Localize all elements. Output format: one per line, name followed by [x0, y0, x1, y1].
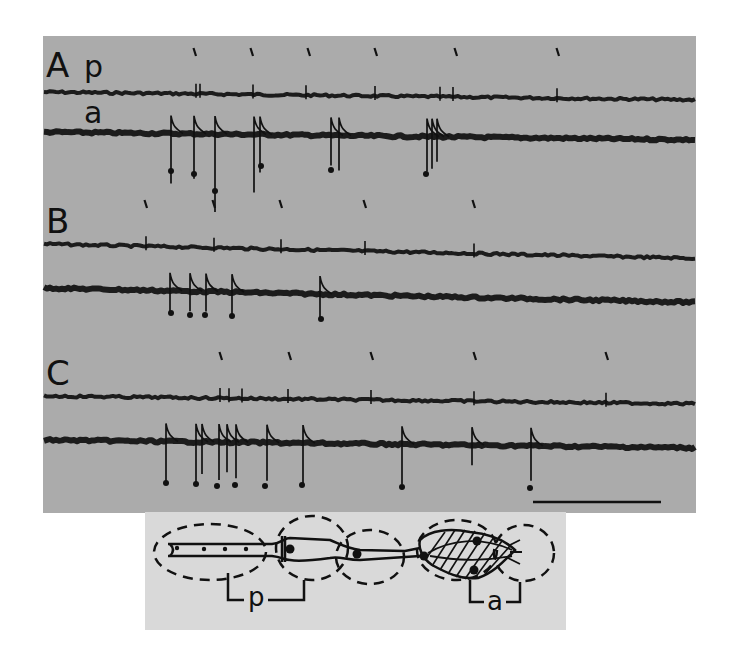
- trace-label-a: a: [84, 95, 102, 130]
- region-label-p: p: [248, 582, 265, 612]
- spike-marker-dot: [318, 316, 324, 322]
- recording-traces: [44, 48, 695, 491]
- a-spike: [531, 428, 543, 481]
- bracket-p-right: [268, 580, 304, 600]
- stimulus-tick: [194, 48, 197, 56]
- region-label-a: a: [487, 586, 503, 616]
- bracket-a-right: [506, 582, 520, 602]
- spike-marker-dot: [193, 481, 199, 487]
- a-spike: [202, 424, 214, 474]
- stimulus-tick: [220, 352, 223, 360]
- spike-marker-dot: [187, 312, 193, 318]
- a-spike: [402, 426, 414, 484]
- cluster-terminals: [508, 540, 522, 564]
- a-spike: [194, 116, 206, 179]
- panel-label-b: B: [46, 201, 69, 241]
- spike-marker-dot: [399, 484, 405, 490]
- panel-a-traces: [44, 48, 695, 212]
- spike-marker-dot: [168, 310, 174, 316]
- a-spike: [166, 423, 178, 481]
- panel-c-traces: [44, 352, 695, 491]
- stimulus-tick: [473, 200, 476, 208]
- a-spike: [432, 119, 444, 169]
- spike-marker-dot: [527, 485, 533, 491]
- spike-marker-dot: [212, 188, 218, 194]
- spike-marker-dot: [328, 167, 334, 173]
- stimulus-tick: [606, 352, 609, 360]
- panel-label-a: A: [46, 45, 69, 85]
- spike-marker-dot: [232, 482, 238, 488]
- dashed-region-1: [154, 524, 266, 580]
- stimulus-tick: [251, 48, 254, 56]
- spike-marker-dot: [262, 483, 268, 489]
- a-spike: [267, 425, 279, 481]
- spike-marker-dot: [163, 480, 169, 486]
- spike-marker-dot: [202, 312, 208, 318]
- cell-chain-lower: [168, 556, 420, 561]
- spike-marker-dot: [423, 171, 429, 177]
- spike-marker-dot: [299, 482, 305, 488]
- stimulus-tick: [371, 352, 374, 360]
- bracket-a-left: [470, 580, 484, 602]
- panel-label-c: C: [46, 353, 70, 393]
- spike-marker-dot: [168, 168, 174, 174]
- spike-marker-dot: [214, 483, 220, 489]
- stimulus-tick: [364, 200, 367, 208]
- panel-b-traces: [44, 200, 695, 322]
- stimulus-tick: [375, 48, 378, 56]
- spike-marker-dot: [258, 163, 264, 169]
- stimulus-tick: [289, 352, 292, 360]
- stimulus-tick: [557, 48, 560, 56]
- a-spike: [215, 116, 227, 212]
- stimulus-tick: [280, 200, 283, 208]
- a-spike: [236, 424, 248, 478]
- spike-marker-dot: [191, 171, 197, 177]
- figure-canvas: A p a B C: [0, 0, 729, 658]
- stimulus-tick: [474, 352, 477, 360]
- stimulus-tick: [455, 48, 458, 56]
- a-spike: [303, 425, 315, 483]
- a-spike: [339, 118, 351, 171]
- neuron-diagram: [154, 516, 554, 584]
- spike-marker-dot: [229, 313, 235, 319]
- trace-label-p: p: [84, 49, 103, 84]
- stimulus-tick: [145, 200, 148, 208]
- stimulus-tick: [308, 48, 311, 56]
- cell-end: [170, 544, 173, 556]
